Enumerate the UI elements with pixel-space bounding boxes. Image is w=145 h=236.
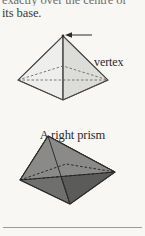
oblique-pyramid-diagram xyxy=(0,124,145,222)
apex-point xyxy=(62,35,65,38)
paragraph-line-2: its base. xyxy=(0,7,41,20)
section-divider xyxy=(3,227,142,228)
figure-not-right-prism: Not a right prism xyxy=(0,124,145,222)
leader-arrowhead-icon xyxy=(65,32,72,38)
right-pyramid-diagram xyxy=(0,28,145,114)
figure-right-prism: vertex A right prism xyxy=(0,28,145,114)
textbook-page-fragment: exactly over the centre of its base. xyxy=(0,0,145,236)
vertex-label: vertex xyxy=(94,56,123,68)
